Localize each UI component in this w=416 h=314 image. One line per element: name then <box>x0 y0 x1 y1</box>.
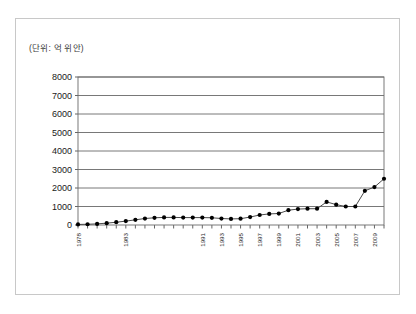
data-point <box>363 189 367 193</box>
data-point <box>325 200 329 204</box>
x-tick-label: 1983 <box>122 232 129 246</box>
x-tick-label: 2007 <box>352 232 359 246</box>
gridlines-group <box>75 77 384 225</box>
data-point <box>286 208 290 212</box>
data-series-markers <box>76 177 386 227</box>
y-tick-label: 3000 <box>52 165 72 175</box>
data-point <box>85 222 89 226</box>
chart-figure: (단위: 억 위안) 01000200030004000500060007000… <box>0 0 416 314</box>
y-tick-label: 2000 <box>52 183 72 193</box>
y-tick-label: 1000 <box>52 202 72 212</box>
x-tick-label: 1991 <box>199 232 206 246</box>
data-point <box>95 222 99 226</box>
x-axis-tick-labels: 1978198319911993199519971999200120032005… <box>75 232 378 246</box>
data-point <box>114 220 118 224</box>
x-tick-label: 2005 <box>333 232 340 246</box>
data-point <box>382 177 386 181</box>
y-axis-tick-labels: 010002000300040005000600070008000 <box>52 72 72 230</box>
data-point <box>152 216 156 220</box>
x-tick-label: 1995 <box>237 232 244 246</box>
data-point <box>344 204 348 208</box>
data-point <box>229 217 233 221</box>
x-tick-label: 2001 <box>294 232 301 246</box>
x-axis-tickmarks <box>78 225 384 229</box>
x-tick-label: 2009 <box>371 232 378 246</box>
data-point <box>143 216 147 220</box>
data-point <box>200 216 204 220</box>
data-point <box>315 207 319 211</box>
data-point <box>334 203 338 207</box>
x-tick-label: 1978 <box>75 232 82 246</box>
data-point <box>162 215 166 219</box>
x-tick-label: 1999 <box>275 232 282 246</box>
data-point <box>353 204 357 208</box>
data-point <box>305 207 309 211</box>
x-tick-label: 1993 <box>218 232 225 246</box>
x-tick-label: 2003 <box>314 232 321 246</box>
data-point <box>210 216 214 220</box>
line-chart-svg: 010002000300040005000600070008000 197819… <box>0 0 416 314</box>
data-point <box>219 216 223 220</box>
data-point <box>372 185 376 189</box>
data-point <box>248 215 252 219</box>
plot-area: 010002000300040005000600070008000 197819… <box>0 0 416 314</box>
data-point <box>105 221 109 225</box>
y-tick-label: 4000 <box>52 146 72 156</box>
data-point <box>133 218 137 222</box>
data-point <box>181 216 185 220</box>
data-point <box>238 217 242 221</box>
y-tick-label: 8000 <box>52 72 72 82</box>
data-point <box>172 215 176 219</box>
data-point <box>277 211 281 215</box>
data-point <box>267 212 271 216</box>
data-point <box>296 207 300 211</box>
data-point <box>124 219 128 223</box>
y-tick-label: 5000 <box>52 128 72 138</box>
y-tick-label: 6000 <box>52 109 72 119</box>
y-tick-label: 7000 <box>52 91 72 101</box>
y-tick-label: 0 <box>67 220 72 230</box>
x-tick-label: 1997 <box>256 232 263 246</box>
data-point <box>76 222 80 226</box>
data-point <box>258 213 262 217</box>
data-point <box>191 216 195 220</box>
